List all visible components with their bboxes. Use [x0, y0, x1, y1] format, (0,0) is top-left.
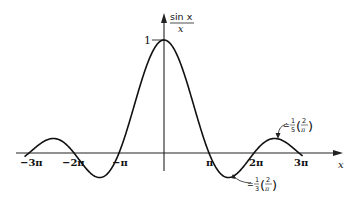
annotation-max-rparen: ) [308, 119, 313, 134]
annotation-max-paren-den: π [300, 126, 306, 134]
x-tick-label-2pi: 2π [249, 157, 263, 168]
annotation-max: ≐ 1 5 ( 2 π ) [276, 117, 314, 139]
annotation-max-frac-num: 1 [291, 117, 295, 125]
y-label-denominator: x [178, 23, 184, 34]
annotation-max-paren-num: 2 [302, 117, 306, 125]
sinc-chart: x sin x x 1 −3π −2π −π π 2π 3π ≐ 1 3 ( 2… [0, 0, 356, 204]
annotation-min-frac-den: 3 [255, 185, 259, 193]
y-axis-arrow-icon [161, 13, 167, 23]
y-tick-label-1: 1 [144, 34, 151, 47]
annotation-min: ≐ 1 3 ( 2 π ) [231, 174, 277, 193]
y-label-numerator: sin x [170, 11, 193, 22]
x-axis-label: x [338, 159, 344, 170]
y-axis-label: sin x x [170, 11, 194, 34]
annotation-min-paren-num: 2 [266, 176, 270, 184]
annotation-min-prefix: ≐ [247, 180, 254, 189]
annotation-min-paren-den: π [264, 185, 270, 193]
annotation-max-frac-den: 5 [291, 126, 295, 134]
x-axis-arrow-icon [333, 150, 343, 156]
annotation-min-rparen: ) [272, 178, 277, 193]
x-tick-label-3pi: 3π [294, 157, 308, 168]
x-tick-label-neg3pi: −3π [20, 157, 43, 168]
annotation-min-frac-num: 1 [255, 176, 259, 184]
annotation-max-prefix: ≐ [283, 121, 290, 130]
